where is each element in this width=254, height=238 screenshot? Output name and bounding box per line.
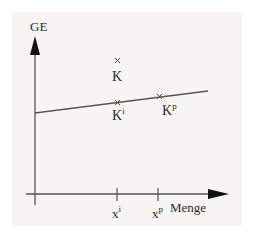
marker-k-icon [115,58,120,63]
x-axis-label: Menge [170,201,206,214]
point-k-label: K [112,68,122,84]
tick-xi-label: xi [112,205,121,220]
point-ki-label: Ki [112,107,125,123]
x-axis-arrow-icon [208,189,229,199]
diagram-canvas [0,0,254,238]
tick-xp-label: xp [152,205,163,220]
y-axis-label: GE [30,20,47,33]
y-axis-arrow-icon [30,36,40,55]
point-kp-label: Kp [162,102,177,118]
